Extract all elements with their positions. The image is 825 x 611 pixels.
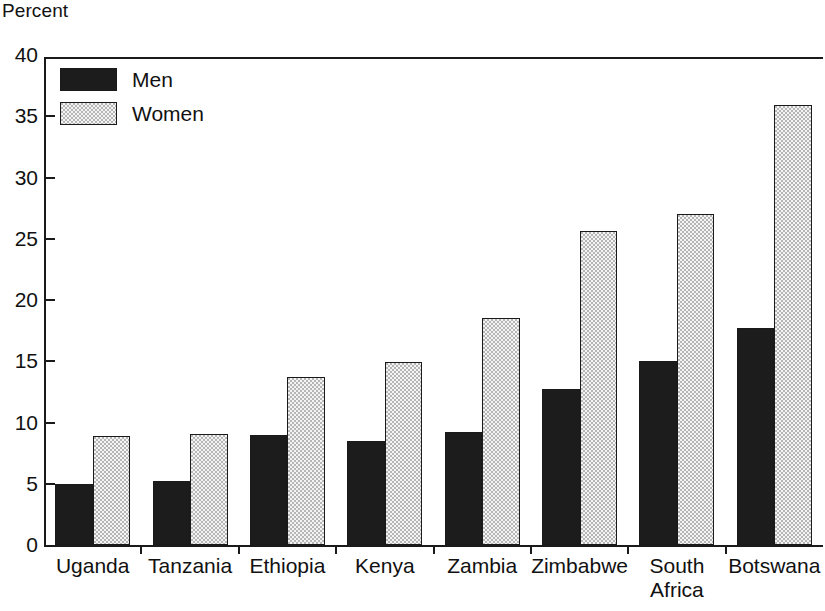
legend-label-women: Women [132, 103, 204, 124]
x-axis-tick [627, 545, 629, 554]
bar-group [726, 57, 823, 545]
bar-women [774, 105, 811, 545]
x-axis-tick [433, 545, 435, 554]
y-axis-tick-30 [46, 177, 55, 179]
x-axis-label: Tanzania [135, 554, 244, 578]
bar-men [347, 441, 384, 545]
legend-item-men: Men [60, 64, 220, 94]
y-axis-tick-35 [46, 115, 55, 117]
legend-label-men: Men [132, 69, 173, 90]
bar-group [531, 57, 628, 545]
bar-group [434, 57, 531, 545]
bar-group [628, 57, 725, 545]
y-axis-label-35: 35 [0, 105, 38, 126]
x-axis-label: Kenya [330, 554, 439, 578]
bar-women [580, 231, 617, 545]
bar-men [250, 435, 287, 545]
x-axis-label: Ethiopia [233, 554, 342, 578]
legend-item-women: Women [60, 98, 220, 128]
y-axis-label-5: 5 [0, 473, 38, 494]
y-axis-tick-15 [46, 360, 55, 362]
y-axis-tick-25 [46, 238, 55, 240]
y-axis-tick-5 [46, 483, 55, 485]
bar-men [55, 484, 92, 545]
legend-swatch-women [60, 102, 117, 125]
y-axis-label-25: 25 [0, 228, 38, 249]
x-axis-label: Botswana [720, 554, 825, 578]
x-axis-tick [530, 545, 532, 554]
bar-men [737, 328, 774, 545]
x-axis-label: Zambia [428, 554, 537, 578]
x-axis-tick [335, 545, 337, 554]
y-axis-tick-labels: 0510152025303540 [0, 0, 38, 611]
bar-group [239, 57, 336, 545]
x-axis-label: Zimbabwe [525, 554, 634, 578]
bar-women [385, 362, 422, 545]
bar-chart-figure: Percent 0510152025303540 MenWomen Uganda… [0, 0, 825, 611]
x-axis-tick [725, 545, 727, 554]
y-axis-label-10: 10 [0, 412, 38, 433]
bar-men [639, 361, 676, 545]
bar-women [190, 434, 227, 545]
x-axis-tick [238, 545, 240, 554]
y-axis-label-15: 15 [0, 350, 38, 371]
bar-men [153, 481, 190, 545]
y-axis-tick-10 [46, 422, 55, 424]
bar-men [542, 389, 579, 545]
chart-legend: MenWomen [60, 64, 220, 132]
bar-women [677, 214, 714, 545]
x-axis-label: South Africa [622, 554, 731, 602]
bar-group [336, 57, 433, 545]
bar-women [482, 318, 519, 545]
bar-women [287, 377, 324, 545]
y-axis-label-20: 20 [0, 289, 38, 310]
y-axis-label-30: 30 [0, 167, 38, 188]
y-axis-label-40: 40 [0, 44, 38, 65]
y-axis-label-0: 0 [0, 534, 38, 555]
x-axis-label: Uganda [38, 554, 147, 578]
bar-men [445, 432, 482, 545]
y-axis-tick-20 [46, 299, 55, 301]
x-axis-tick [140, 545, 142, 554]
legend-swatch-men [60, 68, 117, 91]
bar-women [93, 436, 130, 545]
